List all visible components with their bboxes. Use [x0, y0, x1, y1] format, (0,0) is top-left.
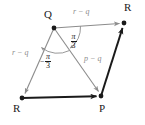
angle-left-numerator: π: [45, 53, 51, 61]
edge-P-to-Rtr: [101, 28, 123, 96]
angle-right-numerator: π: [71, 33, 77, 41]
angle-label-left: −π3: [40, 53, 51, 71]
vertex-dot-Q: [52, 26, 57, 31]
vector-label-Q-to-P: p − q: [84, 55, 101, 63]
vertex-label-R-top-right: R: [124, 2, 131, 13]
angle-left-denominator: 3: [45, 61, 51, 70]
vector-label-Q-to-R-left: r − q: [12, 49, 29, 57]
vertex-dot-R-bottom-left: [20, 96, 25, 101]
vertex-dot-R-top-right: [122, 21, 127, 26]
angle-label-right: π3: [70, 33, 77, 51]
vector-Q-to-Rtr: [54, 24, 120, 29]
edge-Rbl-to-P: [22, 96, 97, 98]
vertex-label-R-bottom-left: R: [13, 103, 20, 114]
diagram-canvas: [0, 0, 145, 125]
angle-right-denominator: 3: [71, 41, 77, 50]
vertex-label-Q: Q: [44, 9, 52, 20]
geometry-diagram: Q R P R r − q r − q p − q π3 −π3: [0, 0, 145, 125]
angle-right-fraction: π3: [71, 33, 77, 51]
vertex-dot-P: [99, 94, 104, 99]
vertex-label-P: P: [99, 103, 105, 114]
vector-label-Q-to-R-top: r − q: [73, 8, 90, 16]
angle-left-fraction: π3: [45, 53, 51, 71]
